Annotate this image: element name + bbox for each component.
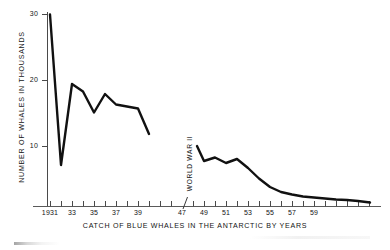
- x-tick-label-59: 59: [301, 209, 327, 216]
- axis-lines: [33, 12, 381, 207]
- y-axis-ticks: [42, 15, 48, 147]
- scan-artifact-bottom-left: [14, 242, 60, 245]
- x-axis-ticks: [51, 201, 370, 207]
- x-tick-label-39: 39: [125, 209, 151, 216]
- world-war-two-annotation: WORLD WAR II: [186, 120, 193, 208]
- x-axis-caption: CATCH OF BLUE WHALES IN THE ANTARCTIC BY…: [0, 222, 390, 230]
- data-line-prewar: [50, 15, 149, 166]
- data-line-postwar: [197, 146, 370, 203]
- scan-artifact-bottom-right: [250, 236, 370, 239]
- y-tick-label-30: 30: [16, 10, 38, 17]
- whale-catch-figure: 30 20 10 1931 33 35 37 39 47 49 51 53 55…: [0, 0, 390, 250]
- y-axis-title: NUMBER OF WHALES IN THOUSANDS: [18, 17, 26, 197]
